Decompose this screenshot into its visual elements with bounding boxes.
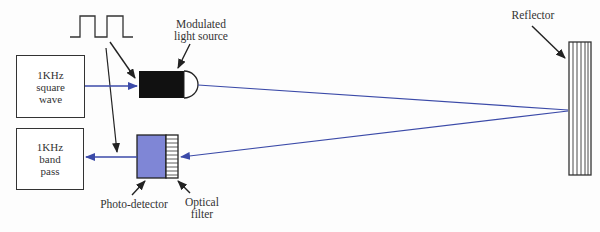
block-text-line: wave — [36, 93, 65, 105]
label-line: filter — [182, 208, 222, 220]
reflector — [569, 42, 591, 175]
photo-detector — [137, 135, 166, 178]
outgoing-beam — [198, 85, 568, 110]
pulse-to-detector-arrow — [106, 48, 117, 152]
label-line: Modulated — [166, 18, 236, 30]
photo-detector-label: Photo-detector — [98, 198, 170, 210]
reflector-label-arrow — [532, 26, 565, 58]
modulated-light-source — [139, 71, 198, 98]
label-line: Optical — [182, 196, 222, 208]
reflected-beam — [181, 111, 568, 157]
optical-filter — [166, 135, 178, 178]
band-pass-filter-block: 1KHz band pass — [16, 128, 84, 190]
light-source-label: Modulated light source — [166, 18, 236, 42]
square-wave-generator-block: 1KHz square wave — [16, 55, 85, 118]
light-source-label-arrow — [178, 44, 190, 68]
square-wave-pulse-icon — [70, 16, 133, 37]
reflector-label: Reflector — [503, 9, 563, 21]
diagram-canvas: 1KHz square wave 1KHz band pass Modulate… — [0, 0, 600, 232]
photo-detector-label-arrow — [132, 181, 145, 195]
block-text-line: 1KHz — [36, 69, 65, 81]
block-text-line: band — [37, 153, 63, 165]
pulse-to-source-arrow — [110, 42, 135, 78]
label-line: light source — [166, 30, 236, 42]
block-text-line: square — [36, 81, 65, 93]
block-text-line: pass — [37, 165, 63, 177]
block-text-line: 1KHz — [37, 141, 63, 153]
optical-filter-label-arrow — [178, 181, 190, 193]
optical-filter-label: Optical filter — [182, 196, 222, 220]
diagram-graphics — [0, 0, 600, 232]
